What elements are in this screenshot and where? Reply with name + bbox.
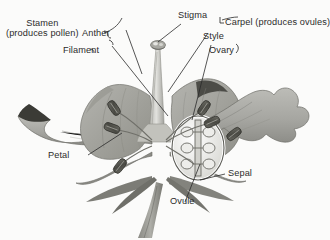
label-stamen: Stamen (produces pollen) (6, 18, 79, 38)
ovary-brace (236, 44, 238, 53)
label-ovule: Ovule (170, 196, 195, 207)
label-filament: Filament (63, 45, 99, 56)
label-style: Style (203, 31, 224, 42)
label-ovary: Ovary (209, 45, 234, 56)
petal-upper-left (80, 84, 152, 159)
label-petal: Petal (48, 150, 69, 161)
leader-stigma (158, 24, 181, 42)
label-stamen-line2: (produces pollen) (6, 28, 79, 38)
leader-anther (126, 30, 142, 74)
label-sepal: Sepal (228, 168, 252, 179)
label-anther: Anther (82, 28, 110, 39)
label-stamen-line1: Stamen (26, 18, 58, 28)
label-carpel: Carpel (produces ovules) (225, 17, 330, 28)
label-stigma: Stigma (178, 10, 207, 21)
anther-brace (109, 40, 113, 45)
ovary (172, 116, 224, 180)
